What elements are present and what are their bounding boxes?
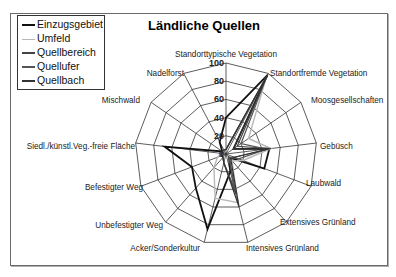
legend-swatch (22, 52, 35, 54)
axis-label: Standortfremde Vegetation (270, 69, 368, 78)
legend-label: Umfeld (37, 32, 70, 44)
tick-label: 80 (214, 76, 224, 86)
axis-label: Mischwald (102, 96, 141, 105)
axis-spoke (141, 154, 226, 186)
legend-swatch (22, 24, 35, 26)
axis-label: Gebüsch (320, 142, 353, 151)
tick-label: 60 (214, 94, 224, 104)
axis-label: Nadelforst (147, 69, 185, 78)
tick-label: 40 (214, 113, 224, 123)
legend: Einzugsgebiet Umfeld Quellbereich Quellu… (17, 15, 105, 90)
legend-item-quellufer: Quellufer (22, 59, 80, 73)
tick-label: 100 (209, 58, 224, 68)
axis-label: Intensives Grünland (246, 244, 319, 253)
legend-item-quellbereich: Quellbereich (22, 45, 96, 59)
chart-title: Ländliche Quellen (148, 18, 260, 33)
axis-label: Siedl./künstl.Veg.-freie Fläche (27, 142, 136, 151)
legend-label: Quellbach (37, 74, 84, 86)
series-quellufer (221, 76, 267, 190)
legend-swatch (22, 80, 35, 82)
legend-label: Einzugsgebiet (37, 18, 103, 30)
axis-label: Standorttypische Vegetation (175, 50, 277, 59)
legend-item-quellbach: Quellbach (22, 73, 84, 87)
legend-label: Quellufer (37, 60, 80, 72)
axis-label: Befestigter Weg (85, 183, 144, 192)
axis-label: Extensives Grünland (280, 218, 356, 227)
axis-label: Acker/Sonderkultur (130, 244, 200, 253)
tick-label: 0 (219, 149, 224, 159)
tick-label: 20 (214, 131, 224, 141)
axis-label: Laubwald (306, 179, 341, 188)
legend-label: Quellbereich (37, 46, 96, 58)
legend-item-einzugsgebiet: Einzugsgebiet (22, 17, 103, 31)
axis-label: Moosgesellschaften (311, 96, 384, 105)
legend-swatch (22, 39, 35, 40)
legend-item-umfeld: Umfeld (22, 31, 70, 45)
legend-swatch (22, 66, 35, 68)
axis-label: Unbefestigter Weg (95, 221, 163, 230)
